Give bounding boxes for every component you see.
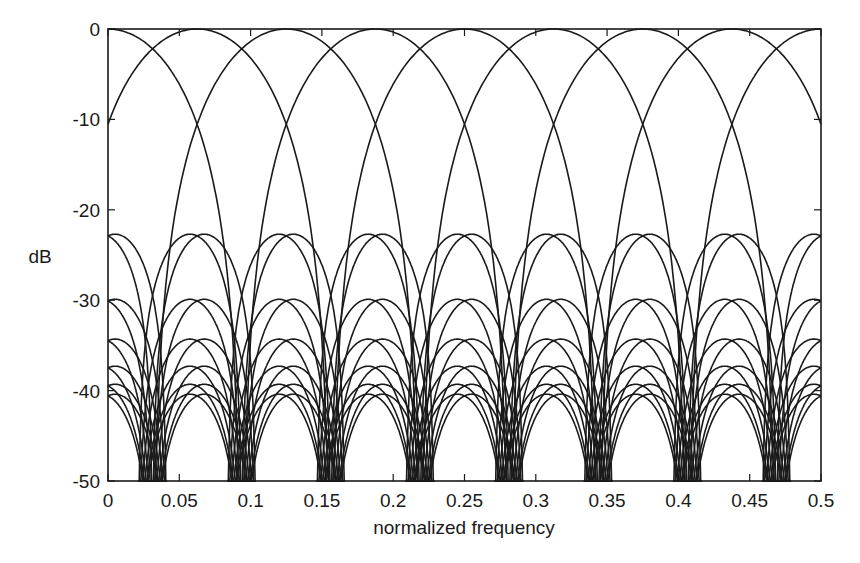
response-curve bbox=[242, 29, 509, 481]
x-tick-label: 0.4 bbox=[665, 490, 692, 511]
x-tick-label: 0.15 bbox=[303, 490, 340, 511]
response-curve bbox=[509, 29, 776, 481]
y-tick-label: -40 bbox=[73, 381, 100, 402]
response-curve bbox=[420, 29, 687, 481]
x-tick-label: 0.35 bbox=[589, 490, 626, 511]
response-curve bbox=[331, 29, 598, 481]
x-axis-label: normalized frequency bbox=[373, 517, 555, 538]
x-tick-label: 0.05 bbox=[161, 490, 198, 511]
plot-area-frame bbox=[108, 29, 821, 481]
response-curves bbox=[108, 29, 821, 481]
y-tick-label: -30 bbox=[73, 290, 100, 311]
y-tick-label: -50 bbox=[73, 471, 100, 492]
y-tick-label: -20 bbox=[73, 200, 100, 221]
response-curve bbox=[153, 29, 420, 481]
y-tick-label: -10 bbox=[73, 109, 100, 130]
x-axis: 00.050.10.150.20.250.30.350.40.450.5 bbox=[103, 29, 835, 511]
x-tick-label: 0.5 bbox=[808, 490, 834, 511]
filter-bank-response-chart: 00.050.10.150.20.250.30.350.40.450.5 0-1… bbox=[0, 0, 860, 563]
y-axis-label: dB bbox=[28, 246, 51, 267]
x-tick-label: 0.45 bbox=[731, 490, 768, 511]
x-tick-label: 0.25 bbox=[446, 490, 483, 511]
x-tick-label: 0 bbox=[103, 490, 114, 511]
x-tick-label: 0.3 bbox=[523, 490, 549, 511]
x-tick-label: 0.1 bbox=[237, 490, 263, 511]
y-tick-label: 0 bbox=[89, 19, 100, 40]
x-tick-label: 0.2 bbox=[380, 490, 406, 511]
